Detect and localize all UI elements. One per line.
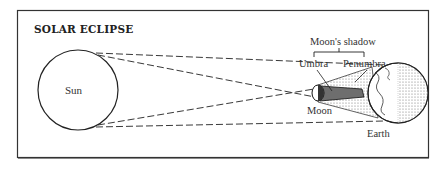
moons-shadow-label: Moon's shadow: [310, 36, 376, 47]
sun-label: Sun: [65, 84, 83, 96]
penumbra-label: Penumbra: [343, 58, 386, 69]
moon-label: Moon: [307, 105, 333, 116]
sun: Sun: [38, 50, 118, 130]
umbra-label: Umbra: [299, 58, 328, 69]
earth: Earth: [367, 60, 430, 139]
earth-label: Earth: [367, 128, 390, 139]
diagram-title: SOLAR ECLIPSE: [34, 23, 133, 35]
solar-eclipse-diagram: SOLAR ECLIPSE Sun Moon Earth Moon's shad…: [0, 0, 444, 171]
